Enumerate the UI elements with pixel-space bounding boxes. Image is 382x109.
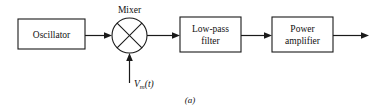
low-pass-filter-box [180,17,241,52]
oscillator-label: Oscillator [33,30,71,40]
figure-caption: (a) [185,95,196,105]
low-pass-filter-label-line-2: filter [201,36,220,46]
mixer-label: Mixer [118,5,142,15]
block-mixer [112,18,147,53]
power-amplifier-label-line-2: amplifier [285,36,321,46]
block-oscillator: Oscillator [18,19,85,49]
wire-modulation-input [126,53,133,83]
block-power-amplifier: Power amplifier [272,17,333,52]
wire-mixer-to-filter [147,32,180,39]
arrowhead-icon [104,32,112,39]
arrowhead-icon [172,32,180,39]
low-pass-filter-label-line-1: Low-pass [192,24,229,34]
arrowhead-icon [361,32,369,39]
modulating-signal-label: Vm(t) [134,79,154,90]
wire-filter-to-amplifier [241,32,272,39]
diagram-canvas: Oscillator Mixer Vm(t) [0,0,382,109]
power-amplifier-label-line-1: Power [290,24,315,34]
signal-argument: (t) [145,79,154,90]
svg-text:Vm(t): Vm(t) [134,79,154,90]
arrowhead-icon [264,32,272,39]
arrowhead-icon [126,53,133,61]
wire-oscillator-to-mixer [85,32,112,39]
power-amplifier-box [272,17,333,52]
block-low-pass-filter: Low-pass filter [180,17,241,52]
wire-amplifier-output [333,32,369,39]
block-diagram-figure: Oscillator Mixer Vm(t) [0,0,382,109]
